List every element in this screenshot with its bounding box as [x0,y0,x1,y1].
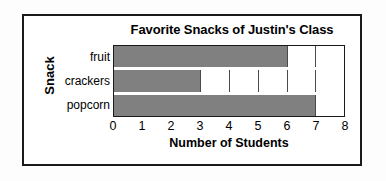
x-tick-label-4: 4 [219,119,239,133]
category-axis-labels: fruit crackers popcorn [49,45,113,117]
bar-rows [114,46,344,116]
x-tick-label-8: 8 [335,119,355,133]
plot-inner [114,46,344,116]
bar-fruit [114,46,287,67]
x-tick-label-5: 5 [248,119,268,133]
category-label-crackers: crackers [49,69,113,93]
x-tick-label-3: 3 [190,119,210,133]
bar-popcorn [114,95,315,116]
x-tick-label-0: 0 [103,119,123,133]
table-row [114,67,344,91]
category-label-fruit: fruit [49,45,113,69]
x-axis-title: Number of Students [113,136,345,150]
x-tick-label-1: 1 [132,119,152,133]
x-tick-label-6: 6 [277,119,297,133]
chart-page: Favorite Snacks of Justin's Class Snack … [0,0,386,181]
table-row [114,92,344,116]
chart-title: Favorite Snacks of Justin's Class [115,22,349,37]
bar-crackers [114,70,200,91]
x-axis-tick-labels: 012345678 [113,119,345,135]
table-row [114,46,344,67]
x-tick-label-2: 2 [161,119,181,133]
chart-frame: Favorite Snacks of Justin's Class Snack … [22,14,362,166]
plot-area [113,45,345,117]
category-label-popcorn: popcorn [49,93,113,117]
x-tick-label-7: 7 [306,119,326,133]
